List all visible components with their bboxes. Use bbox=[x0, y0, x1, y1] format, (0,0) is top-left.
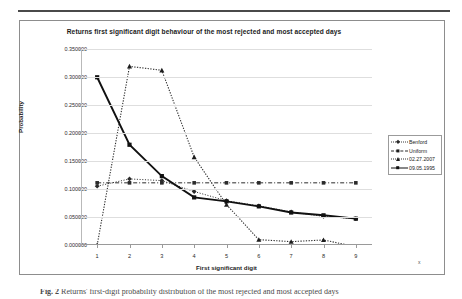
x-tick-label: 8 bbox=[314, 253, 334, 259]
figure-caption-text: Returns' first-digit probability distrib… bbox=[61, 289, 339, 296]
x-axis-label: First significant digit bbox=[81, 264, 372, 271]
x-tick-label: 2 bbox=[120, 253, 140, 259]
figure-page: Returns first significant digit behaviou… bbox=[0, 0, 462, 299]
gridline bbox=[81, 161, 372, 162]
legend-label-benford: Benford bbox=[408, 139, 427, 145]
legend-label-date-2007: 02.27.2007 bbox=[408, 156, 435, 162]
x-tick-mark bbox=[259, 245, 260, 248]
legend-key-uniform bbox=[391, 147, 408, 155]
x-tick-mark bbox=[227, 245, 228, 248]
x-tick-mark bbox=[130, 245, 131, 248]
gridline bbox=[81, 133, 372, 134]
x-tick-label: 7 bbox=[281, 253, 301, 259]
chart-title: Returns first significant digit behaviou… bbox=[20, 28, 388, 35]
x-tick-label: 6 bbox=[249, 253, 269, 259]
plot-area bbox=[81, 49, 372, 245]
gridline bbox=[81, 77, 372, 78]
x-tick-mark bbox=[291, 245, 292, 248]
legend-key-benford bbox=[391, 138, 408, 146]
chart-legend[interactable]: Benford Uniform 02.27.2007 09.05.1995 bbox=[388, 135, 442, 175]
x-tick-label: 9 bbox=[346, 253, 366, 259]
x-tick-mark bbox=[324, 245, 325, 248]
figure-caption-label: Fig. 2 bbox=[40, 289, 59, 296]
x-axis-end-marker: x bbox=[418, 259, 421, 265]
y-axis-label: Probability bbox=[17, 101, 24, 133]
x-tick-mark bbox=[162, 245, 163, 248]
x-tick-mark bbox=[194, 245, 195, 248]
x-tick-label: 1 bbox=[87, 253, 107, 259]
legend-key-date-2007 bbox=[391, 155, 408, 163]
legend-item-benford[interactable]: Benford bbox=[391, 138, 439, 147]
x-tick-label: 5 bbox=[217, 253, 237, 259]
legend-item-date-1995[interactable]: 09.05.1995 bbox=[391, 164, 439, 173]
gridline bbox=[81, 189, 372, 190]
gridline bbox=[81, 105, 372, 106]
legend-item-uniform[interactable]: Uniform bbox=[391, 147, 439, 156]
legend-label-date-1995: 09.05.1995 bbox=[408, 165, 435, 171]
legend-item-date-2007[interactable]: 02.27.2007 bbox=[391, 155, 439, 164]
chart-frame: Returns first significant digit behaviou… bbox=[19, 20, 445, 275]
gridline bbox=[81, 49, 372, 50]
page-top-rule bbox=[18, 10, 450, 12]
figure-caption-clip: Fig. 2 Returns' first-digit probability … bbox=[0, 289, 462, 299]
x-tick-mark bbox=[97, 245, 98, 248]
x-tick-label: 3 bbox=[152, 253, 172, 259]
gridline bbox=[81, 217, 372, 218]
x-tick-mark bbox=[356, 245, 357, 248]
plot-frame bbox=[81, 49, 372, 245]
legend-key-date-1995 bbox=[391, 164, 408, 172]
x-tick-label: 4 bbox=[184, 253, 204, 259]
legend-label-uniform: Uniform bbox=[408, 148, 427, 154]
